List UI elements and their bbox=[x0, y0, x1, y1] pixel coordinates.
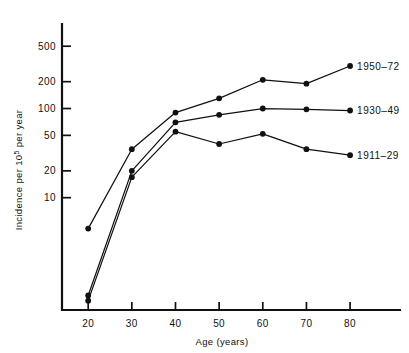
data-point bbox=[347, 63, 353, 69]
data-point bbox=[129, 168, 135, 174]
series-label-1930-49: 1930–49 bbox=[357, 105, 399, 116]
data-point bbox=[347, 152, 353, 158]
x-tick-label: 50 bbox=[213, 318, 225, 329]
data-point bbox=[129, 146, 135, 152]
x-tick-label: 70 bbox=[300, 318, 312, 329]
y-axis-title-post: per year bbox=[13, 110, 24, 151]
series-1930-49 bbox=[85, 106, 353, 299]
x-axis-tick-labels: 20304050607080 bbox=[82, 318, 356, 329]
data-point bbox=[260, 131, 266, 137]
x-axis-title: Age (years) bbox=[196, 336, 249, 347]
data-point bbox=[85, 226, 91, 232]
data-point bbox=[260, 106, 266, 112]
series-1950-72 bbox=[85, 63, 353, 231]
data-point bbox=[304, 106, 310, 112]
data-point bbox=[216, 112, 222, 118]
y-axis-tick-labels: 102050100200500 bbox=[38, 41, 56, 203]
data-point bbox=[216, 95, 222, 101]
data-point bbox=[216, 141, 222, 147]
x-axis-ticks bbox=[88, 302, 350, 310]
x-tick-label: 60 bbox=[257, 318, 269, 329]
y-tick-label: 20 bbox=[44, 165, 56, 176]
series-line bbox=[88, 109, 350, 296]
x-tick-label: 80 bbox=[344, 318, 356, 329]
x-tick-label: 30 bbox=[126, 318, 138, 329]
y-tick-label: 500 bbox=[38, 41, 56, 52]
data-point bbox=[347, 108, 353, 114]
x-tick-label: 40 bbox=[170, 318, 182, 329]
y-axis-title-pre: Incidence per 10 bbox=[13, 155, 24, 231]
series-label-1950-72: 1950–72 bbox=[357, 61, 399, 72]
data-point bbox=[260, 77, 266, 83]
data-point bbox=[85, 298, 91, 304]
data-point bbox=[173, 119, 179, 125]
series-labels-group: 1950–721930–491911–29 bbox=[357, 61, 399, 161]
series-1911-29 bbox=[85, 129, 353, 304]
data-point bbox=[173, 129, 179, 135]
y-tick-label: 100 bbox=[38, 103, 56, 114]
y-axis-title: Incidence per 105 per year bbox=[13, 110, 25, 231]
series-label-1911-29: 1911–29 bbox=[357, 150, 399, 161]
y-axis-ticks bbox=[62, 46, 71, 197]
data-point bbox=[173, 110, 179, 116]
y-tick-label: 10 bbox=[44, 192, 56, 203]
y-tick-label: 50 bbox=[44, 130, 56, 141]
incidence-by-age-chart: 102050100200500 20304050607080 1950–7219… bbox=[0, 0, 409, 353]
y-tick-label: 200 bbox=[38, 76, 56, 87]
data-point bbox=[129, 174, 135, 180]
data-point bbox=[304, 146, 310, 152]
chart-plot-area: 102050100200500 20304050607080 1950–7219… bbox=[0, 0, 409, 353]
chart-series-group bbox=[85, 63, 353, 303]
series-line bbox=[88, 66, 350, 229]
x-tick-label: 20 bbox=[82, 318, 94, 329]
data-point bbox=[304, 81, 310, 87]
